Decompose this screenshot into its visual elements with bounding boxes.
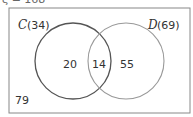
region-outside: 79 bbox=[15, 94, 29, 107]
region-c-and-d: 14 bbox=[92, 58, 106, 71]
set-d-total: (69) bbox=[157, 19, 180, 32]
region-only-c: 20 bbox=[63, 58, 77, 71]
universal-set-label: ξ = 168 bbox=[2, 0, 45, 6]
set-c-total: (34) bbox=[27, 19, 50, 32]
set-c-name: C bbox=[18, 18, 27, 32]
venn-diagram: ξ = 168 C (34) D (69) 20 14 55 79 bbox=[0, 0, 193, 117]
region-only-d: 55 bbox=[120, 58, 134, 71]
